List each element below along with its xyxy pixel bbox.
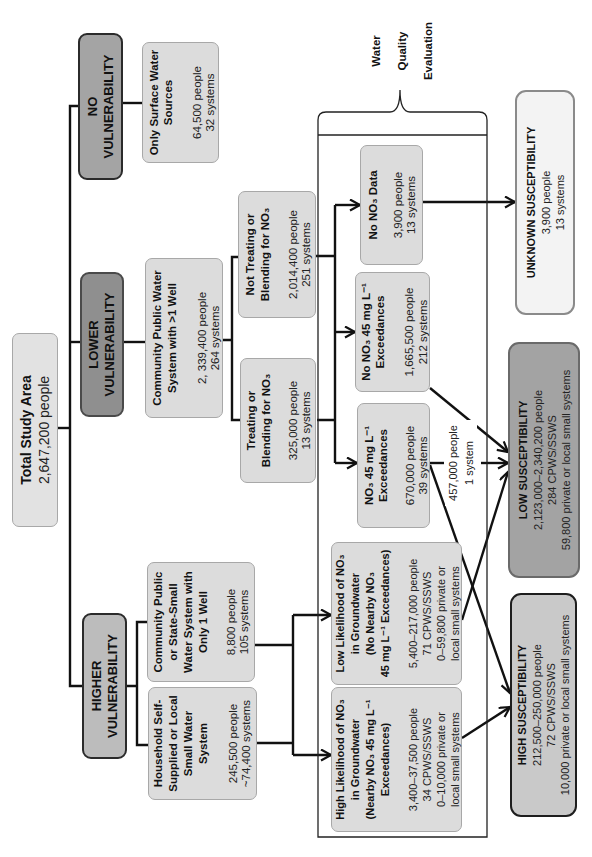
bracket-label-word: Quality: [389, 32, 415, 71]
node-stat: 2,123,000–2,340,200 people: [531, 390, 545, 530]
node-total-study-area: Total Study Area 2,647,200 people: [12, 333, 58, 527]
node-title: Community Public: [151, 572, 166, 673]
node-stat: 13 systems: [553, 175, 567, 231]
node-stat: 13 systems: [405, 176, 418, 234]
node-stat: 325,000 people: [287, 381, 300, 460]
connector-higher-bracket: [127, 622, 148, 745]
node-title: LOW SUSCEPTIBILITY: [516, 401, 531, 520]
node-stat: 2,647,200 people: [35, 376, 53, 484]
water-quality-evaluation-label: Water Quality Evaluation: [363, 11, 441, 91]
node-title: Community Public Water: [150, 270, 165, 406]
connector-groundwater-bus: [255, 615, 293, 755]
node-title: (Nearby NO₃ 45 mg L⁻¹: [363, 700, 378, 820]
node-title: VULNERABILITY: [101, 55, 117, 159]
node-stat: 245,500 people: [227, 704, 240, 783]
node-stat: 212 systems: [416, 300, 430, 365]
edge-label-people: 457,000 people: [445, 425, 461, 501]
node-stat: 13 systems: [300, 391, 313, 449]
node-stat: 251 systems: [300, 222, 313, 287]
node-not-treating: Not Treating or Blending for NO₃ 2,014,4…: [238, 191, 316, 318]
node-title: in Groundwater: [348, 573, 363, 654]
node-title: System: [196, 723, 211, 764]
node-title: VULNERABILITY: [105, 634, 121, 738]
node-stat: 8,800 people: [225, 589, 238, 656]
node-stat: 39 systems: [417, 436, 430, 494]
node-title: Small Water: [181, 711, 196, 776]
node-stat: 10,000 private or local small systems: [558, 615, 572, 795]
edge-label-systems: 1 system: [461, 441, 477, 485]
node-stat: 3,900 people: [392, 172, 405, 239]
node-title: LOWER: [86, 320, 102, 368]
node-stat: 72 CPWS/SSWS: [544, 663, 558, 747]
node-nitrate-exceedances: NO₃ 45 mg L⁻¹ Exceedances 670,000 people…: [357, 403, 430, 528]
node-title: or State-Small: [166, 583, 181, 660]
node-stat: 64,500 people: [191, 66, 204, 139]
node-title: in Groundwater: [348, 719, 363, 800]
node-title: High Likelihood of NO₃: [333, 699, 348, 820]
node-stat: 0–59,800 private or: [434, 566, 448, 661]
node-high-likelihood: High Likelihood of NO₃ in Groundwater (N…: [331, 687, 462, 832]
node-treating: Treating or Blending for NO₃ 325,000 peo…: [240, 358, 316, 483]
node-stat: 3,900 people: [539, 171, 553, 235]
bracket-label-word: Water: [363, 35, 389, 67]
node-low-likelihood: Low Likelihood of NO₃ in Groundwater (No…: [331, 542, 462, 685]
node-stat: 0–10,000 private or: [434, 712, 448, 807]
edge-label-exceedances-to-low: 457,000 people 1 system: [445, 420, 477, 506]
node-title: Exceedances: [373, 296, 387, 369]
node-stat: local small systems: [448, 566, 462, 661]
node-title: Exceedances: [376, 429, 390, 502]
node-title: NO₃ 45 mg L⁻¹: [362, 426, 376, 505]
node-title: (No Nearby NO₃: [363, 572, 378, 655]
node-low-susceptibility: LOW SUSCEPTIBILITY 2,123,000–2,340,200 p…: [508, 342, 580, 578]
node-stat: 105 systems: [238, 590, 251, 655]
node-stat: 2, 339,400 people: [196, 292, 209, 384]
node-title: Household Self-: [151, 700, 166, 788]
node-title: Low Likelihood of NO₃: [333, 554, 348, 672]
node-stat: 212,500–250,000 people: [530, 644, 544, 766]
node-lower-vulnerability: LOWER VULNERABILITY: [80, 272, 124, 417]
node-title: Blending for NO₃: [259, 374, 274, 467]
bracket-label-word: Evaluation: [415, 22, 441, 80]
node-title: UNKNOWN SUSCEPTIBILITY: [524, 127, 539, 279]
node-title: Sources: [161, 80, 175, 125]
node-surface-water-only: Only Surface Water Sources 64,500 people…: [142, 42, 219, 163]
node-cpws-single-well: Community Public or State-Small Water Sy…: [147, 562, 255, 682]
node-stat: 59,800 private or local small systems: [559, 370, 573, 550]
node-title: Blending for NO₃: [258, 208, 273, 301]
node-title: Supplied or Local: [166, 695, 181, 791]
node-stat: 3,400–37,500 people: [406, 708, 420, 811]
node-stat: 1,665,500 people: [402, 288, 416, 377]
node-title: Not Treating or: [243, 214, 258, 296]
arrow-high-likelihood-to-high: [462, 707, 510, 738]
node-stat: 670,000 people: [404, 426, 417, 505]
node-unknown-susceptibility: UNKNOWN SUSCEPTIBILITY 3,900 people 13 s…: [515, 90, 575, 315]
connector-treatment-bus: [316, 205, 335, 463]
node-stat: 2,014,400 people: [287, 210, 300, 299]
node-title: NO: [85, 97, 101, 117]
node-title: Only 1 Well: [196, 591, 211, 653]
node-title: Total Study Area: [17, 375, 35, 485]
page: Total Study Area 2,647,200 people NO VUL…: [0, 0, 592, 857]
node-higher-vulnerability: HIGHER VULNERABILITY: [82, 613, 127, 759]
node-stat: 34 CPWS/SSWS: [420, 718, 434, 802]
node-stat: 264 systems: [209, 306, 222, 371]
node-title: VULNERABILITY: [102, 293, 118, 397]
node-title: HIGHER: [89, 661, 105, 712]
node-title: No NO₃ Data: [365, 170, 381, 239]
node-title: Water System with: [181, 571, 196, 673]
susceptibility-flow-diagram: Total Study Area 2,647,200 people NO VUL…: [0, 0, 592, 857]
node-title: System with >1 Well: [165, 283, 180, 393]
node-household-self-supplied: Household Self- Supplied or Local Small …: [148, 687, 257, 800]
node-no-nitrate-exceedances: No NO₃ 45 mg L⁻¹ Exceedances 1,665,500 p…: [355, 272, 430, 392]
node-no-nitrate-data: No NO₃ Data 3,900 people 13 systems: [360, 145, 423, 265]
node-stat: 284 CPWS/SSWS: [545, 415, 559, 505]
node-title: HIGH SUSCEPTIBILITY: [515, 645, 530, 765]
node-cpws-multi-well: Community Public Water System with >1 We…: [145, 258, 223, 418]
node-title: 45 mg L⁻¹ Exceedances): [378, 550, 393, 678]
node-high-susceptibility: HIGH SUSCEPTIBILITY 212,500–250,000 peop…: [510, 593, 577, 817]
node-stat: local small systems: [448, 712, 462, 807]
node-no-vulnerability: NO VULNERABILITY: [78, 33, 123, 180]
node-title: Only Surface Water: [147, 50, 161, 156]
node-title: Exceedances): [378, 723, 393, 796]
node-stat: 32 systems: [204, 73, 217, 131]
